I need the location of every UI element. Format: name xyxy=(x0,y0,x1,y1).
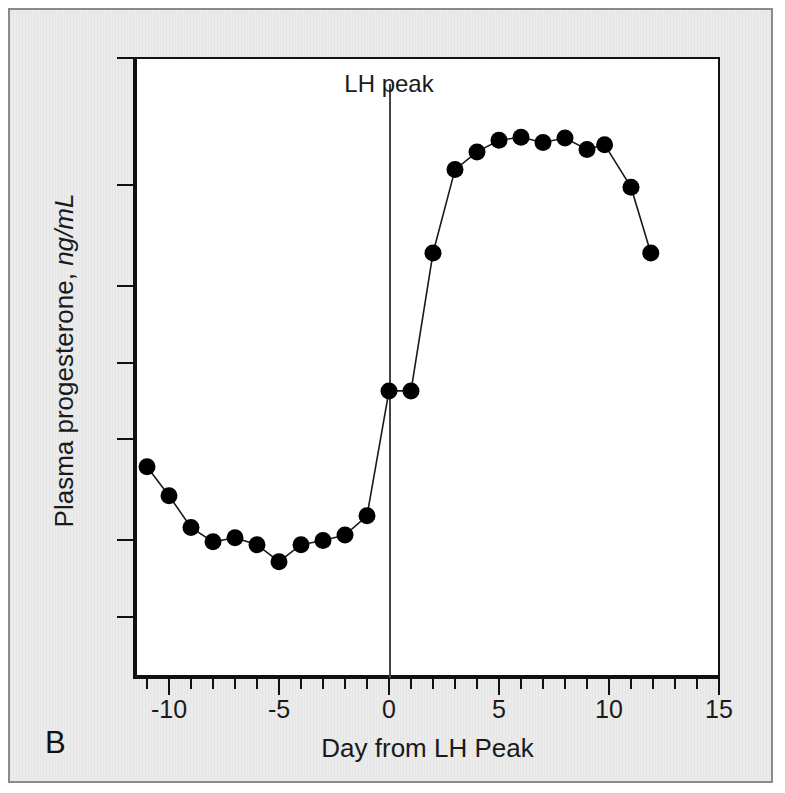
x-tick-label--5: -5 xyxy=(239,697,319,722)
data-point xyxy=(403,382,420,399)
x-tick-5 xyxy=(498,679,500,695)
x-tick-label-10: 10 xyxy=(569,697,649,722)
x-tick--11 xyxy=(146,679,148,689)
x-tick-8 xyxy=(564,679,566,689)
data-point xyxy=(596,136,613,153)
x-tick-3 xyxy=(454,679,456,689)
data-point xyxy=(447,161,464,178)
panel-label: B xyxy=(45,725,66,761)
x-tick-7 xyxy=(542,679,544,689)
data-point xyxy=(183,519,200,536)
y-tick-2 xyxy=(117,362,134,364)
y-axis-title: Plasma progesterone, ng/mL xyxy=(49,101,80,621)
data-point xyxy=(579,141,596,158)
x-tick-10 xyxy=(608,679,610,695)
data-point xyxy=(425,245,442,262)
x-tick-9 xyxy=(586,679,588,689)
y-tick-1 xyxy=(117,438,134,440)
data-point xyxy=(359,507,376,524)
data-point xyxy=(315,532,332,549)
x-tick--7 xyxy=(234,679,236,689)
data-point xyxy=(249,536,266,553)
x-tick-4 xyxy=(476,679,478,689)
data-point xyxy=(642,245,659,262)
x-tick-label--10: -10 xyxy=(129,697,209,722)
data-point xyxy=(293,536,310,553)
x-tick--8 xyxy=(212,679,214,689)
data-point xyxy=(337,527,354,544)
data-point xyxy=(623,179,640,196)
y-axis-title-units: ng/mL xyxy=(49,194,79,266)
y-tick-0.4 xyxy=(117,539,134,541)
series-line xyxy=(147,137,651,561)
y-axis-title-plain: Plasma progesterone, xyxy=(49,266,79,528)
y-tick-20 xyxy=(117,57,134,59)
y-tick-4 xyxy=(117,285,134,287)
data-point xyxy=(139,458,156,475)
data-series-plot xyxy=(135,58,719,678)
x-tick-11 xyxy=(630,679,632,689)
x-tick-15 xyxy=(718,679,720,695)
data-point xyxy=(513,129,530,146)
x-tick--10 xyxy=(168,679,170,695)
figure-panel-b: 20104210.40.2 -10-5051015 LH peak Plasma… xyxy=(0,0,785,793)
x-tick--3 xyxy=(322,679,324,689)
data-point xyxy=(271,553,288,570)
y-tick-0.2 xyxy=(117,616,134,618)
x-tick--2 xyxy=(344,679,346,689)
data-point xyxy=(161,487,178,504)
data-point xyxy=(491,132,508,149)
x-tick--5 xyxy=(278,679,280,695)
x-tick-label-0: 0 xyxy=(349,697,429,722)
data-point xyxy=(381,382,398,399)
data-point xyxy=(469,143,486,160)
x-tick-14 xyxy=(696,679,698,689)
x-tick-12 xyxy=(652,679,654,689)
y-tick-10 xyxy=(117,184,134,186)
x-tick-6 xyxy=(520,679,522,689)
data-point xyxy=(205,533,222,550)
x-tick-label-5: 5 xyxy=(459,697,539,722)
x-tick--9 xyxy=(190,679,192,689)
x-tick-13 xyxy=(674,679,676,689)
x-tick-1 xyxy=(410,679,412,689)
x-tick--1 xyxy=(366,679,368,689)
x-tick--6 xyxy=(256,679,258,689)
data-point xyxy=(557,130,574,147)
x-tick-2 xyxy=(432,679,434,689)
x-tick--4 xyxy=(300,679,302,689)
x-tick-0 xyxy=(388,679,390,695)
data-point xyxy=(535,134,552,151)
x-axis-title: Day from LH Peak xyxy=(135,733,720,764)
data-point xyxy=(227,529,244,546)
x-tick-label-15: 15 xyxy=(679,697,759,722)
